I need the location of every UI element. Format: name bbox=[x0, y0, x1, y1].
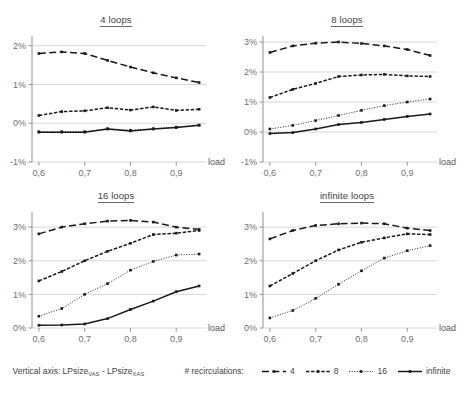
series-marker-16 bbox=[269, 317, 272, 320]
vertical-axis-sub-2: XAS bbox=[133, 371, 145, 377]
x-tick-label: 0,7 bbox=[78, 334, 91, 344]
x-tick-label: 0,8 bbox=[124, 334, 137, 344]
series-marker-8 bbox=[406, 75, 409, 78]
series-marker-infinite bbox=[106, 317, 109, 320]
plot-area-3: 0%1%2%3%0,60,70,80,9load bbox=[231, 204, 463, 358]
series-marker-infinite bbox=[314, 128, 317, 131]
series-marker-8 bbox=[383, 237, 386, 240]
series-marker-infinite bbox=[38, 324, 41, 327]
y-tick-label: 2% bbox=[13, 256, 26, 266]
series-marker-4 bbox=[429, 229, 432, 232]
x-tick-label: 0,9 bbox=[170, 168, 183, 178]
legend-swatch-8 bbox=[306, 367, 330, 376]
x-axis-label: load bbox=[208, 157, 225, 167]
series-marker-8 bbox=[106, 250, 109, 253]
legend-swatch-4 bbox=[262, 367, 286, 376]
y-tick-label: -1% bbox=[10, 157, 26, 167]
series-marker-16 bbox=[106, 282, 109, 285]
series-marker-infinite bbox=[198, 285, 201, 288]
x-tick-label: 0,6 bbox=[264, 168, 277, 178]
series-marker-4 bbox=[383, 222, 386, 225]
chart-title-2: 16 loops bbox=[0, 190, 232, 201]
y-tick-label: 1% bbox=[13, 80, 26, 90]
y-tick-label: 1% bbox=[244, 290, 257, 300]
series-marker-infinite bbox=[383, 118, 386, 121]
series-marker-4 bbox=[360, 42, 363, 45]
series-marker-8 bbox=[129, 109, 132, 112]
series-marker-4 bbox=[106, 220, 109, 223]
series-marker-8 bbox=[383, 73, 386, 76]
series-marker-4 bbox=[291, 229, 294, 232]
panel-chart-0: 4 loops -1%0%1%2%0,60,70,80,9load bbox=[0, 14, 232, 194]
series-marker-16 bbox=[337, 283, 340, 286]
y-tick-label: 1% bbox=[244, 97, 257, 107]
series-marker-4 bbox=[152, 221, 155, 224]
x-tick-label: 0,8 bbox=[355, 334, 368, 344]
series-marker-4 bbox=[314, 42, 317, 45]
series-marker-16 bbox=[337, 114, 340, 117]
series-marker-4 bbox=[406, 227, 409, 230]
plot-area-0: -1%0%1%2%0,60,70,80,9load bbox=[0, 28, 232, 194]
series-marker-4 bbox=[83, 52, 86, 55]
series-marker-8 bbox=[60, 110, 63, 113]
vertical-axis-sub-1: VAS bbox=[88, 371, 99, 377]
legend-label-infinite: infinite bbox=[426, 366, 451, 376]
series-marker-16 bbox=[314, 297, 317, 300]
series-marker-infinite bbox=[175, 126, 178, 129]
panel-chart-3: infinite loops 0%1%2%3%0,60,70,80,9load bbox=[231, 190, 463, 358]
chart-title-2-text: 16 loops bbox=[98, 190, 135, 203]
series-marker-4 bbox=[60, 51, 63, 54]
series-marker-4 bbox=[269, 238, 272, 241]
series-marker-16 bbox=[360, 109, 363, 112]
legend-item-4: 4 bbox=[262, 366, 295, 376]
x-tick-label: 0,7 bbox=[309, 334, 322, 344]
legend-item-16: 16 bbox=[349, 366, 386, 376]
series-marker-infinite bbox=[360, 121, 363, 124]
series-marker-4 bbox=[60, 226, 63, 229]
series-marker-4 bbox=[38, 233, 41, 236]
series-marker-16 bbox=[406, 101, 409, 104]
series-marker-infinite bbox=[83, 131, 86, 134]
series-marker-infinite bbox=[429, 113, 432, 116]
x-tick-label: 0,6 bbox=[33, 168, 46, 178]
y-tick-label: 0% bbox=[13, 118, 26, 128]
chart-title-0-text: 4 loops bbox=[100, 14, 131, 27]
series-marker-4 bbox=[291, 45, 294, 48]
legend-swatch-16 bbox=[349, 367, 373, 376]
x-tick-label: 0,9 bbox=[401, 168, 414, 178]
y-tick-label: 0% bbox=[244, 323, 257, 333]
series-marker-8 bbox=[291, 88, 294, 91]
series-marker-infinite bbox=[291, 131, 294, 134]
plot-area-1: -1%0%1%2%3%0,60,70,80,9load bbox=[231, 28, 463, 194]
series-marker-infinite bbox=[269, 132, 272, 135]
series-marker-infinite bbox=[106, 128, 109, 131]
chart-title-1-text: 8 loops bbox=[331, 14, 362, 27]
legend-marker bbox=[273, 370, 276, 373]
x-tick-label: 0,8 bbox=[355, 168, 368, 178]
figure-legend: Vertical axis: LPsizeVAS - LPsizeXAS # r… bbox=[0, 358, 463, 384]
series-line-8 bbox=[270, 234, 430, 286]
series-marker-4 bbox=[269, 51, 272, 54]
series-marker-16 bbox=[198, 253, 201, 256]
y-tick-label: 0% bbox=[244, 127, 257, 137]
series-marker-8 bbox=[175, 232, 178, 235]
y-tick-label: 2% bbox=[244, 67, 257, 77]
series-marker-8 bbox=[360, 74, 363, 77]
series-marker-16 bbox=[314, 119, 317, 122]
vertical-axis-description: Vertical axis: LPsizeVAS - LPsizeXAS bbox=[13, 366, 145, 376]
legend-label-4: 4 bbox=[290, 366, 295, 376]
series-marker-4 bbox=[175, 226, 178, 229]
series-marker-infinite bbox=[175, 290, 178, 293]
series-marker-16 bbox=[383, 104, 386, 107]
series-marker-8 bbox=[129, 242, 132, 245]
y-tick-label: 0% bbox=[13, 323, 26, 333]
panel-chart-1: 8 loops -1%0%1%2%3%0,60,70,80,9load bbox=[231, 14, 463, 194]
chart-title-3: infinite loops bbox=[231, 190, 463, 201]
x-tick-label: 0,7 bbox=[78, 168, 91, 178]
x-tick-label: 0,8 bbox=[124, 168, 137, 178]
series-marker-infinite bbox=[83, 323, 86, 326]
series-marker-16 bbox=[360, 270, 363, 273]
series-marker-infinite bbox=[60, 131, 63, 134]
series-marker-8 bbox=[406, 233, 409, 236]
x-axis-label: load bbox=[439, 157, 456, 167]
